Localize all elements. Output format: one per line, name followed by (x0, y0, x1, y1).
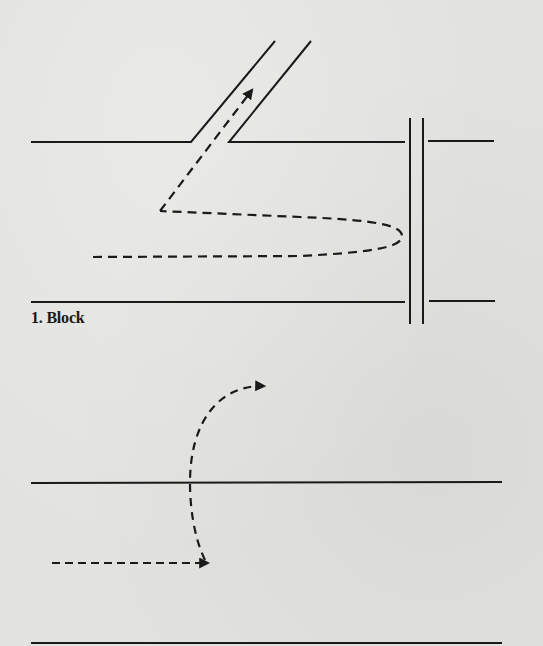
top-wall-right (229, 41, 405, 142)
path-loop (93, 211, 402, 257)
panel-label-block: 1. Block (31, 309, 85, 327)
panel-block (31, 41, 495, 324)
path-curve-arrow (190, 386, 264, 560)
path-exit-arrow (160, 90, 252, 211)
top-wall-left (31, 41, 275, 142)
top-line (31, 482, 502, 483)
panel-crossing (31, 386, 502, 643)
